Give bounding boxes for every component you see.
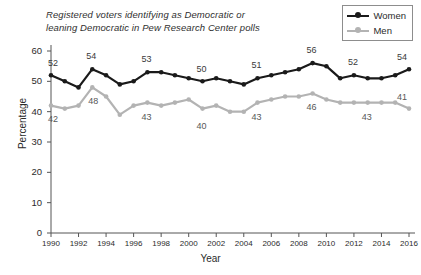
data-point-women bbox=[76, 85, 81, 90]
data-point-women bbox=[365, 76, 370, 81]
data-point-women bbox=[393, 73, 398, 78]
data-point-label: 54 bbox=[86, 51, 96, 61]
data-point-men bbox=[338, 100, 343, 105]
data-point-men bbox=[407, 106, 412, 111]
data-point-women bbox=[407, 67, 412, 72]
x-tick-label: 2002 bbox=[201, 239, 231, 248]
data-point-women bbox=[200, 79, 205, 84]
data-point-women bbox=[310, 61, 315, 66]
data-point-women bbox=[214, 76, 219, 81]
data-point-women bbox=[297, 67, 302, 72]
data-point-men bbox=[118, 112, 123, 117]
data-point-label: 52 bbox=[348, 57, 358, 67]
data-point-men bbox=[379, 100, 384, 105]
x-tick-label: 1998 bbox=[146, 239, 176, 248]
y-tick-label: 40 bbox=[20, 106, 42, 117]
data-point-women bbox=[131, 79, 136, 84]
data-point-men bbox=[283, 94, 288, 99]
x-tick-label: 1994 bbox=[91, 239, 121, 248]
data-point-label: 54 bbox=[397, 52, 407, 62]
data-point-women bbox=[352, 73, 357, 78]
data-point-label: 56 bbox=[307, 45, 317, 55]
data-point-men bbox=[324, 97, 329, 102]
data-point-label: 41 bbox=[397, 92, 407, 102]
data-point-women bbox=[118, 82, 123, 87]
data-point-men bbox=[242, 109, 247, 114]
x-tick-label: 2016 bbox=[394, 239, 421, 248]
data-point-men bbox=[310, 91, 315, 96]
data-point-label: 43 bbox=[252, 112, 262, 122]
y-tick-label: 30 bbox=[20, 136, 42, 147]
data-point-men bbox=[90, 85, 95, 90]
data-point-men bbox=[255, 100, 260, 105]
y-tick-label: 10 bbox=[20, 197, 42, 208]
data-point-label: 46 bbox=[307, 102, 317, 112]
data-point-women bbox=[104, 73, 109, 78]
data-point-women bbox=[63, 79, 68, 84]
x-tick-label: 2010 bbox=[311, 239, 341, 248]
x-tick-label: 2004 bbox=[229, 239, 259, 248]
data-point-men bbox=[352, 100, 357, 105]
data-point-men bbox=[228, 109, 233, 114]
plot-area bbox=[0, 0, 421, 275]
data-point-men bbox=[63, 106, 68, 111]
data-point-label: 43 bbox=[362, 112, 372, 122]
data-point-label: 51 bbox=[252, 60, 262, 70]
x-tick-label: 2000 bbox=[174, 239, 204, 248]
data-point-men bbox=[186, 97, 191, 102]
data-point-women bbox=[145, 70, 150, 75]
data-point-women bbox=[283, 70, 288, 75]
data-point-men bbox=[104, 94, 109, 99]
data-point-women bbox=[173, 73, 178, 78]
x-tick-label: 2006 bbox=[256, 239, 286, 248]
data-point-men bbox=[159, 103, 164, 108]
data-point-men bbox=[49, 103, 54, 108]
y-tick-label: 20 bbox=[20, 166, 42, 177]
data-point-men bbox=[365, 100, 370, 105]
x-tick-label: 1996 bbox=[119, 239, 149, 248]
data-point-men bbox=[131, 103, 136, 108]
data-point-label: 52 bbox=[48, 58, 58, 68]
data-point-women bbox=[255, 76, 260, 81]
x-tick-label: 2014 bbox=[366, 239, 396, 248]
data-point-women bbox=[338, 76, 343, 81]
data-point-women bbox=[269, 73, 274, 78]
x-tick-label: 1990 bbox=[36, 239, 66, 248]
data-point-women bbox=[159, 70, 164, 75]
data-point-women bbox=[186, 76, 191, 81]
data-point-label: 42 bbox=[48, 114, 58, 124]
data-point-men bbox=[145, 100, 150, 105]
data-point-men bbox=[297, 94, 302, 99]
y-tick-label: 50 bbox=[20, 75, 42, 86]
data-point-men bbox=[76, 103, 81, 108]
data-point-label: 53 bbox=[141, 54, 151, 64]
data-point-women bbox=[90, 67, 95, 72]
data-point-women bbox=[228, 79, 233, 84]
x-tick-label: 2008 bbox=[284, 239, 314, 248]
data-point-men bbox=[173, 100, 178, 105]
data-point-women bbox=[242, 82, 247, 87]
data-point-men bbox=[200, 106, 205, 111]
y-tick-label: 60 bbox=[20, 45, 42, 56]
data-point-label: 48 bbox=[88, 96, 98, 106]
data-point-label: 40 bbox=[196, 121, 206, 131]
data-point-label: 43 bbox=[141, 112, 151, 122]
data-point-men bbox=[214, 103, 219, 108]
x-tick-label: 2012 bbox=[339, 239, 369, 248]
data-point-men bbox=[269, 97, 274, 102]
data-point-women bbox=[49, 73, 54, 78]
data-point-women bbox=[379, 76, 384, 81]
x-tick-label: 1992 bbox=[64, 239, 94, 248]
chart-container: Registered voters identifying as Democra… bbox=[0, 0, 421, 275]
data-point-women bbox=[324, 64, 329, 69]
data-point-label: 50 bbox=[196, 64, 206, 74]
y-tick-label: 0 bbox=[20, 227, 42, 238]
